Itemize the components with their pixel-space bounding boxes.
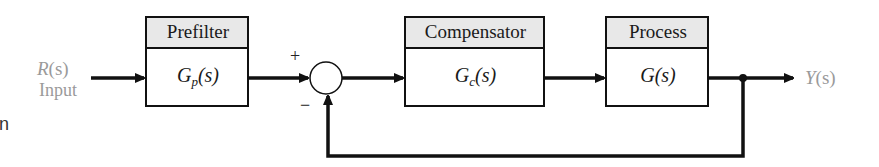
prefilter-title: Prefilter xyxy=(146,21,250,43)
process-transfer-function: G(s) xyxy=(606,64,710,87)
cropped-text-fragment: n xyxy=(0,114,9,135)
process-title: Process xyxy=(606,21,710,43)
minus-sign: − xyxy=(300,95,310,116)
compensator-title: Compensator xyxy=(405,21,546,43)
prefilter-transfer-function: Gp(s) xyxy=(146,64,250,90)
compensator-transfer-function: Gc(s) xyxy=(405,64,546,90)
output-signal-label: Y(s) xyxy=(805,67,836,89)
summing-junction xyxy=(310,62,342,94)
plus-sign: + xyxy=(290,46,300,67)
input-caption: Input xyxy=(39,80,77,101)
input-signal-label: R(s) xyxy=(37,58,69,80)
